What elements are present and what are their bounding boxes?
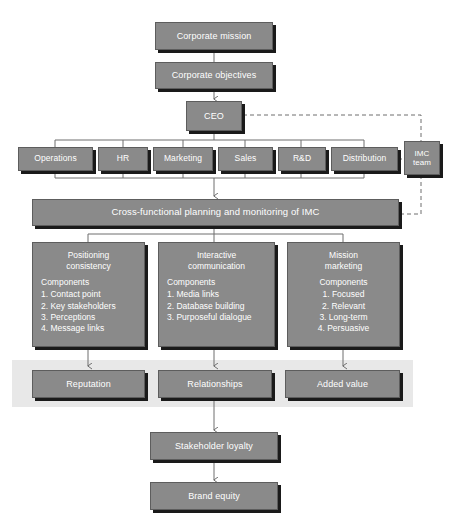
node-department-hr[interactable]: HR	[98, 147, 148, 171]
list-item: 2. Database building	[167, 301, 266, 312]
node-label: Cross-functional planning and monitoring…	[112, 207, 320, 218]
pillar-components-list: 1. Contact point 2. Key stakeholders 3. …	[41, 289, 136, 335]
list-item: 3. Long-term	[296, 312, 391, 323]
pillar-interactive-communication[interactable]: Interactive communication Components 1. …	[158, 242, 275, 347]
node-label: Reputation	[66, 379, 111, 389]
pillar-title: Positioning consistency	[41, 250, 136, 271]
node-label: Corporate mission	[177, 31, 252, 41]
node-department-marketing[interactable]: Marketing	[153, 147, 213, 171]
node-label: Corporate objectives	[172, 70, 257, 80]
list-item: 2. Key stakeholders	[41, 301, 136, 312]
node-label: Operations	[34, 154, 77, 164]
list-item: 4. Message links	[41, 323, 136, 334]
pillar-mission-marketing[interactable]: Mission marketing Components 1. Focused …	[287, 242, 400, 347]
imc-team-line1: IMC	[415, 149, 430, 158]
node-label: R&D	[293, 154, 311, 164]
node-label: HR	[117, 154, 129, 164]
list-item: 4. Persuasive	[296, 323, 391, 334]
node-label: Marketing	[164, 154, 202, 164]
node-brand-equity[interactable]: Brand equity	[150, 482, 278, 510]
node-stakeholder-loyalty[interactable]: Stakeholder loyalty	[150, 432, 278, 460]
node-outcome-relationships[interactable]: Relationships	[158, 370, 272, 398]
node-department-sales[interactable]: Sales	[218, 147, 273, 171]
node-corporate-objectives[interactable]: Corporate objectives	[155, 62, 273, 89]
node-department-rd[interactable]: R&D	[278, 147, 326, 171]
node-department-distribution[interactable]: Distribution	[331, 147, 398, 171]
pillar-components-list: 1. Media links 2. Database building 3. P…	[167, 289, 266, 323]
list-item: 3. Perceptions	[41, 312, 136, 323]
node-imc-team[interactable]: IMC team	[404, 141, 440, 175]
node-corporate-mission[interactable]: Corporate mission	[155, 22, 273, 50]
list-item: 3. Purposeful dialogue	[167, 312, 266, 323]
pillar-positioning-consistency[interactable]: Positioning consistency Components 1. Co…	[32, 242, 145, 347]
pillar-components-label: Components	[167, 277, 266, 287]
list-item: 1. Contact point	[41, 289, 136, 300]
node-ceo[interactable]: CEO	[186, 101, 242, 131]
pillar-components-label: Components	[296, 277, 391, 287]
node-label: Distribution	[343, 154, 387, 164]
list-item: 1. Focused	[296, 289, 391, 300]
node-label: Sales	[235, 154, 257, 164]
node-outcome-added-value[interactable]: Added value	[285, 370, 400, 398]
node-department-operations[interactable]: Operations	[18, 147, 93, 171]
pillar-components-list: 1. Focused 2. Relevant 3. Long-term 4. P…	[296, 289, 391, 335]
node-label: Brand equity	[188, 491, 240, 501]
node-cross-functional-planning[interactable]: Cross-functional planning and monitoring…	[32, 199, 399, 226]
imc-team-line2: team	[413, 158, 431, 167]
node-label: Relationships	[187, 379, 242, 389]
node-outcome-reputation[interactable]: Reputation	[32, 370, 145, 398]
node-label: Added value	[317, 379, 368, 389]
pillar-title: Interactive communication	[167, 250, 266, 271]
node-label: CEO	[204, 111, 224, 121]
imc-flow-diagram: Corporate mission Corporate objectives C…	[0, 0, 456, 529]
pillar-title: Mission marketing	[296, 250, 391, 271]
list-item: 1. Media links	[167, 289, 266, 300]
pillar-components-label: Components	[41, 277, 136, 287]
list-item: 2. Relevant	[296, 301, 391, 312]
node-label: Stakeholder loyalty	[175, 441, 253, 451]
